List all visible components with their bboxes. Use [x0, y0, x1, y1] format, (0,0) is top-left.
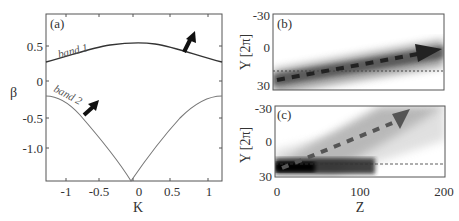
x-tick-a-3: 0.5 — [164, 184, 180, 199]
x-tick-a-0: -1 — [61, 184, 72, 199]
panel-a-label: (a) — [50, 16, 64, 31]
y-tick-b-2: 30 — [257, 78, 270, 93]
y-axis-label-a: β — [10, 85, 17, 100]
panel-c-label: (c) — [277, 107, 291, 122]
y-tick-b-0: -30 — [253, 8, 270, 23]
x-tick-c-0: 0 — [274, 184, 281, 199]
panel-b-label: (b) — [277, 16, 292, 31]
x-tick-c-1: 100 — [350, 184, 370, 199]
x-axis-label-a: K — [133, 200, 143, 215]
y-axis-label-c: Y [2π] — [238, 127, 253, 163]
x-tick-c-2: 200 — [434, 184, 454, 199]
y-axis-label-b: Y [2π] — [238, 34, 253, 70]
y-tick-c-1: 0 — [266, 134, 273, 149]
y-tick-a-3: -1.0 — [22, 141, 43, 156]
y-tick-a-1: 0 — [37, 74, 44, 89]
x-tick-a-4: 1 — [206, 184, 213, 199]
panel-a: (a) band 1 band 2 0.5 0 -0.5 -1.0 -1 -0.… — [10, 14, 222, 215]
y-tick-a-2: -0.5 — [22, 111, 43, 126]
x-tick-a-1: -0.5 — [89, 184, 110, 199]
figure: (a) band 1 band 2 0.5 0 -0.5 -1.0 -1 -0.… — [0, 0, 459, 221]
panel-c: (c) -30 0 30 0 100 200 Z Y [2π] — [238, 101, 454, 215]
x-tick-a-2: 0 — [136, 184, 143, 199]
panel-b: (b) -30 0 30 Y [2π] — [238, 8, 444, 94]
y-tick-c-0: -30 — [255, 101, 272, 116]
y-tick-a-0: 0.5 — [27, 39, 43, 54]
x-axis-label-c: Z — [356, 200, 365, 215]
y-tick-b-1: 0 — [264, 40, 271, 55]
y-tick-c-2: 30 — [259, 169, 272, 184]
